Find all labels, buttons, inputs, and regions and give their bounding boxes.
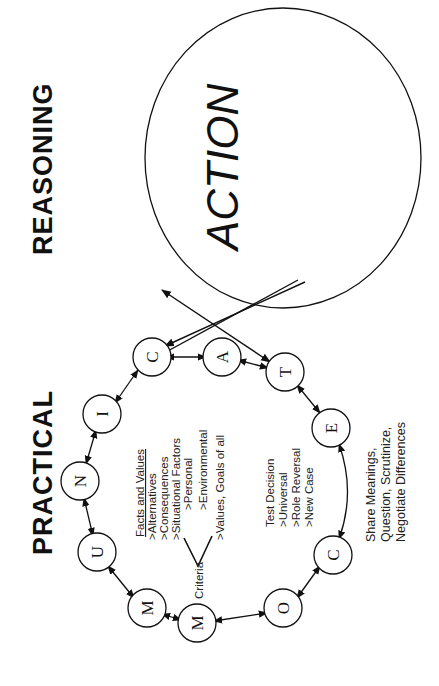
criteria-bracket: [184, 536, 212, 566]
facts-item-situational: >Situational Factors: [170, 438, 182, 540]
title-word-reasoning: REASONING: [28, 82, 58, 255]
svg-text:C: C: [143, 351, 162, 362]
node-u: U: [78, 533, 116, 571]
facts-subitem-environmental: >Environmental: [197, 430, 209, 510]
action-label: ACTION: [198, 84, 247, 253]
test-item-new-case: >New Case: [303, 467, 315, 527]
node-m-upper: M: [128, 589, 166, 627]
facts-values-goals: >Values, Goals of all: [214, 435, 226, 540]
title-word-practical: PRACTICAL: [28, 390, 58, 555]
node-t: T: [266, 353, 304, 391]
facts-item-alternatives: >Alternatives: [146, 473, 158, 540]
svg-text:U: U: [88, 546, 107, 558]
facts-item-consequences: >Consequences: [158, 456, 170, 540]
svg-text:E: E: [322, 423, 341, 433]
node-n: N: [61, 462, 99, 500]
criteria-label: Criteria: [193, 561, 205, 599]
svg-text:T: T: [276, 366, 295, 377]
node-i: I: [83, 395, 121, 433]
test-heading: Test Decision: [264, 459, 276, 527]
svg-text:O: O: [274, 602, 293, 614]
practical-reasoning-diagram: PRACTICAL REASONING ACTION C I N: [0, 0, 439, 686]
test-item-universal: >Universal: [277, 472, 289, 527]
svg-text:I: I: [93, 411, 112, 417]
diagram-title: PRACTICAL REASONING: [28, 82, 58, 555]
test-item-role-reversal: >Role Reversal: [290, 448, 302, 527]
node-c-bottom: C: [314, 536, 352, 574]
svg-text:C: C: [324, 549, 343, 560]
node-a: A: [203, 338, 241, 376]
svg-text:A: A: [213, 350, 232, 363]
svg-text:N: N: [71, 475, 90, 487]
facts-and-values-note: Facts and Values >Alternatives >Conseque…: [134, 430, 226, 599]
svg-text:M: M: [138, 600, 157, 615]
node-c-top: C: [133, 338, 171, 376]
facts-subitem-personal: >Personal: [182, 458, 194, 510]
node-e: E: [312, 409, 350, 447]
action-circle: ACTION: [145, 8, 421, 308]
node-o: O: [264, 589, 302, 627]
share-line-3: Negotiate Differences: [394, 422, 408, 542]
node-m-lower: M: [178, 604, 216, 642]
share-meanings-note: Share Meanings, Question, Scrutinize, Ne…: [364, 422, 408, 542]
facts-heading: Facts and Values: [134, 449, 146, 537]
svg-text:M: M: [188, 615, 207, 630]
share-line-2: Question, Scrutinize,: [379, 427, 393, 542]
test-decision-note: Test Decision >Universal >Role Reversal …: [264, 448, 315, 527]
share-line-1: Share Meanings,: [364, 447, 378, 542]
